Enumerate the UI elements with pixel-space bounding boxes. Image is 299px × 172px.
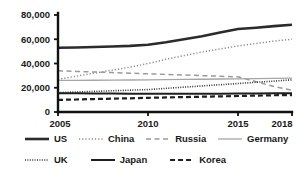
y-axis-tick-labels: 020,00040,00060,00080,000 [21,9,50,117]
series-line-us [58,25,292,48]
plot-area: 020,00040,00060,00080,000 20052010201520… [0,0,299,128]
legend-swatch-germany [217,134,243,144]
series-line-uk [58,80,292,93]
legend-label: Korea [199,155,226,165]
series-line-korea [58,95,292,100]
legend-item-germany[interactable]: Germany [217,134,288,144]
legend-label: UK [54,155,68,165]
x-axis-tick-labels: 2005201020152018 [49,118,292,128]
plot-svg: 020,00040,00060,00080,000 20052010201520… [0,0,299,128]
legend-item-korea[interactable]: Korea [169,155,226,165]
y-axis-tick-label: 80,000 [21,9,50,20]
series-line-china [58,39,292,79]
legend-label: Russia [175,134,206,144]
series-line-germany [58,78,292,80]
legend-swatch-japan [90,155,116,165]
legend-swatch-uk [24,155,50,165]
legend-row: UKJapanKorea [0,149,299,170]
series-line-japan [58,93,292,94]
x-axis-tick-label: 2015 [227,118,249,128]
legend-item-china[interactable]: China [78,134,134,144]
y-axis-tick-label: 60,000 [21,34,50,45]
legend-label: China [108,134,134,144]
line-chart: 020,00040,00060,00080,000 20052010201520… [0,0,299,172]
x-axis-tick-label: 2010 [137,118,158,128]
legend-swatch-russia [145,134,171,144]
legend-label: US [54,134,67,144]
legend-item-japan[interactable]: Japan [90,155,147,165]
chart-legend: USChinaRussiaGermany UKJapanKorea [0,128,299,172]
legend-swatch-korea [169,155,195,165]
x-axis-tick-label: 2018 [271,118,292,128]
legend-swatch-china [78,134,104,144]
legend-item-uk[interactable]: UK [24,155,68,165]
series-lines [58,25,292,100]
x-axis-tick-label: 2005 [49,118,71,128]
y-axis-tick-label: 40,000 [21,58,50,69]
y-axis-tick-label: 0 [45,106,50,117]
legend-label: Germany [247,134,288,144]
legend-row: USChinaRussiaGermany [0,128,299,149]
y-axis-tick-label: 20,000 [21,82,50,93]
legend-item-russia[interactable]: Russia [145,134,206,144]
legend-label: Japan [120,155,147,165]
legend-swatch-us [24,134,50,144]
legend-item-us[interactable]: US [24,134,67,144]
